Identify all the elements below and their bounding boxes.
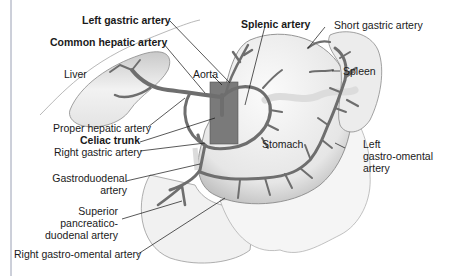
label-splenic-artery: Splenic artery — [241, 18, 310, 30]
label-liver: Liver — [64, 68, 87, 80]
label-short-gastric-artery: Short gastric artery — [334, 19, 423, 31]
label-left-gastric-artery: Left gastric artery — [82, 14, 171, 26]
label-celiac-trunk: Celiac trunk — [80, 134, 140, 146]
label-stomach: Stomach — [262, 138, 303, 150]
label-right-gastro-omental-artery: Right gastro-omental artery — [14, 248, 141, 260]
label-aorta: Aorta — [193, 68, 218, 80]
liver — [69, 52, 169, 127]
label-right-gastric-artery: Right gastric artery — [54, 146, 142, 158]
label-left-gastro-omental-artery: Left gastro-omental artery — [363, 138, 433, 174]
label-superior-pancreaticoduodenal-artery: Superior pancreatico- duodenal artery — [45, 205, 118, 241]
label-spleen: Spleen — [343, 65, 376, 77]
label-gastroduodenal-artery: Gastroduodenal artery — [52, 172, 127, 196]
label-proper-hepatic-artery: Proper hepatic artery — [53, 122, 151, 134]
label-common-hepatic-artery: Common hepatic artery — [50, 36, 167, 48]
stomach-arteries-diagram: Left gastric artery Common hepatic arter… — [0, 0, 463, 276]
